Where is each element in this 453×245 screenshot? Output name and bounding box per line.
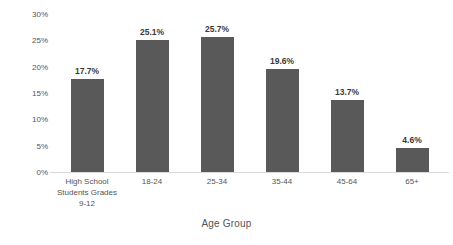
x-axis-tick-label: 65+: [369, 176, 453, 187]
bar: [201, 37, 234, 172]
y-axis-tick-label: 10%: [22, 115, 48, 124]
bar-value-label: 13.7%: [317, 87, 377, 97]
bar-value-label: 4.6%: [382, 135, 442, 145]
y-axis-tick-label: 25%: [22, 36, 48, 45]
x-axis-tick-label-line: 9-12: [44, 198, 130, 209]
bar: [71, 79, 104, 172]
y-axis-tick-label: 30%: [22, 10, 48, 19]
y-axis-tick-label: 15%: [22, 89, 48, 98]
bar-value-label: 19.6%: [252, 56, 312, 66]
bar: [266, 69, 299, 172]
y-axis-tick-label: 5%: [22, 141, 48, 150]
bar: [396, 148, 429, 172]
bar: [136, 40, 169, 172]
bar-value-label: 17.7%: [57, 66, 117, 76]
x-axis-title: Age Group: [0, 218, 453, 229]
y-axis-tick-label: 20%: [22, 62, 48, 71]
x-axis-tick-label-line: 65+: [369, 176, 453, 187]
bar-chart: Percentage 0%5%10%15%20%25%30% 17.7%25.1…: [0, 0, 453, 245]
bar-value-label: 25.1%: [122, 27, 182, 37]
bar-value-label: 25.7%: [187, 24, 247, 34]
plot-area: 17.7%25.1%25.7%19.6%13.7%4.6%: [50, 14, 449, 172]
bar: [331, 100, 364, 172]
x-axis-tick-label-line: Students Grades: [44, 187, 130, 198]
x-axis-line: [50, 172, 449, 173]
